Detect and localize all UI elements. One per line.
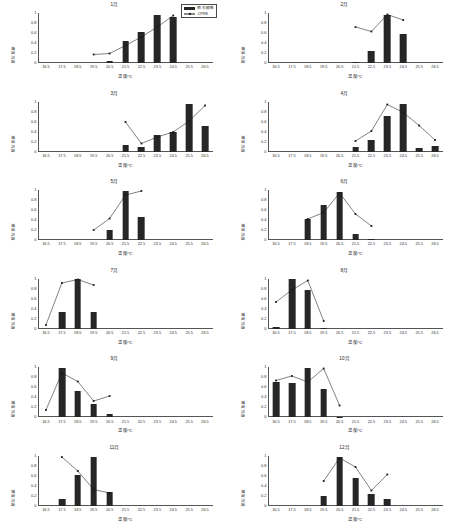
y-axis-tick: 0 <box>34 327 38 331</box>
bar <box>273 382 280 418</box>
y-axis-label: 相对频数 <box>242 367 246 417</box>
bar <box>352 147 359 152</box>
y-axis-tick: 0 <box>264 327 268 331</box>
line-path <box>126 105 206 143</box>
x-axis-tick: 25.5 <box>415 65 422 69</box>
line-marker-icon <box>275 301 277 303</box>
y-axis-label: 相对频数 <box>242 279 246 329</box>
bar <box>106 61 113 64</box>
line-marker-icon <box>291 375 293 377</box>
line-path <box>276 280 324 321</box>
x-axis-tick: 22.5 <box>368 65 375 69</box>
x-axis-tick: 17.5 <box>288 154 295 158</box>
x-axis-label: 温度/℃ <box>38 251 213 256</box>
x-axis-tick: 25.5 <box>415 508 422 512</box>
y-axis-tick: 0.6 <box>31 208 38 212</box>
x-axis-tick: 19.5 <box>90 508 97 512</box>
y-axis-tick: 0.6 <box>261 31 268 35</box>
x-axis-tick: 17.5 <box>288 331 295 335</box>
chart-title: 7月 <box>0 268 229 274</box>
x-axis-tick: 16.5 <box>42 65 49 69</box>
x-axis-label: 温度/℃ <box>268 517 443 522</box>
x-axis-tick: 19.5 <box>320 65 327 69</box>
x-axis-label: 温度/℃ <box>268 74 443 79</box>
bar <box>106 230 113 240</box>
chart-title: 2月 <box>230 2 459 8</box>
y-axis-tick: 0.6 <box>261 385 268 389</box>
x-axis-tick: 24.5 <box>170 420 177 424</box>
x-axis-tick: 20.5 <box>336 420 343 424</box>
chart-panel: 9月相对频数00.20.40.60.8116.517.518.519.520.5… <box>0 354 229 443</box>
plot-area: 00.20.40.60.8116.517.518.519.520.521.522… <box>268 13 443 63</box>
y-axis-tick: 0.4 <box>261 218 268 222</box>
x-axis-tick: 21.5 <box>122 242 129 246</box>
x-axis-tick: 18.5 <box>304 242 311 246</box>
plot-area: 00.20.40.60.8116.517.518.519.520.521.522… <box>268 367 443 417</box>
y-axis-tick: 0.8 <box>261 110 268 114</box>
bar <box>432 146 439 152</box>
y-axis-tick: 0.4 <box>31 41 38 45</box>
x-axis-tick: 20.5 <box>336 508 343 512</box>
x-axis-tick: 24.5 <box>400 420 407 424</box>
legend-item[interactable]: 相对频数 <box>184 6 213 10</box>
chart-title: 6月 <box>230 179 459 185</box>
chart-panel: 10月相对频数00.20.40.60.8116.517.518.519.520.… <box>230 354 459 443</box>
y-axis-tick: 1 <box>34 11 38 15</box>
line-marker-icon <box>109 53 111 55</box>
legend-item[interactable]: CPRE <box>184 12 213 16</box>
bar <box>138 217 145 241</box>
bar <box>368 494 375 506</box>
x-axis-tick: 16.5 <box>272 508 279 512</box>
y-axis-tick: 0.2 <box>31 228 38 232</box>
x-axis-label: 温度/℃ <box>38 163 213 168</box>
bar <box>336 417 343 418</box>
x-axis-tick: 26.5 <box>431 154 438 158</box>
bar <box>352 234 359 241</box>
chart-panel: 3月相对频数00.20.40.60.8116.517.518.519.520.5… <box>0 89 229 178</box>
x-axis-tick: 19.5 <box>90 242 97 246</box>
x-axis-tick: 24.5 <box>170 65 177 69</box>
y-axis-tick: 1 <box>34 365 38 369</box>
y-axis-tick: 0 <box>34 150 38 154</box>
line-marker-icon <box>323 480 325 482</box>
x-axis-tick: 18.5 <box>304 508 311 512</box>
x-axis-tick: 25.5 <box>185 65 192 69</box>
x-axis-tick: 16.5 <box>42 154 49 158</box>
line-marker-icon <box>371 130 373 132</box>
y-axis-tick: 0.8 <box>31 287 38 291</box>
y-axis-tick: 0.4 <box>261 395 268 399</box>
x-axis-tick: 24.5 <box>170 331 177 335</box>
x-axis-tick: 17.5 <box>58 154 65 158</box>
x-axis-tick: 19.5 <box>90 154 97 158</box>
line-marker-icon <box>93 400 95 402</box>
line-marker-icon <box>386 103 388 105</box>
x-axis-tick: 22.5 <box>138 331 145 335</box>
line-marker-icon <box>77 381 79 383</box>
bar <box>74 391 81 417</box>
x-axis-tick: 20.5 <box>106 420 113 424</box>
line-marker-icon <box>386 474 388 476</box>
x-axis-tick: 20.5 <box>336 242 343 246</box>
x-axis-tick: 23.5 <box>154 508 161 512</box>
line-path <box>62 457 110 493</box>
x-axis-tick: 24.5 <box>400 331 407 335</box>
y-axis-tick: 0.6 <box>31 474 38 478</box>
line-path <box>94 191 142 230</box>
x-axis-tick: 16.5 <box>272 420 279 424</box>
chart-title: 10月 <box>230 356 459 362</box>
y-axis-tick: 0.2 <box>31 494 38 498</box>
y-axis-tick: 0.8 <box>261 198 268 202</box>
bar <box>384 116 391 152</box>
x-axis-tick: 22.5 <box>368 508 375 512</box>
x-axis-tick: 26.5 <box>431 331 438 335</box>
line-marker-icon <box>141 190 143 192</box>
x-axis-tick: 21.5 <box>352 154 359 158</box>
bar <box>320 328 327 329</box>
x-axis-tick: 26.5 <box>201 154 208 158</box>
bar <box>74 279 81 329</box>
x-axis-tick: 24.5 <box>400 65 407 69</box>
bar <box>320 389 327 418</box>
bar <box>154 135 161 152</box>
y-axis-tick: 0.6 <box>261 474 268 478</box>
x-axis-tick: 21.5 <box>352 508 359 512</box>
